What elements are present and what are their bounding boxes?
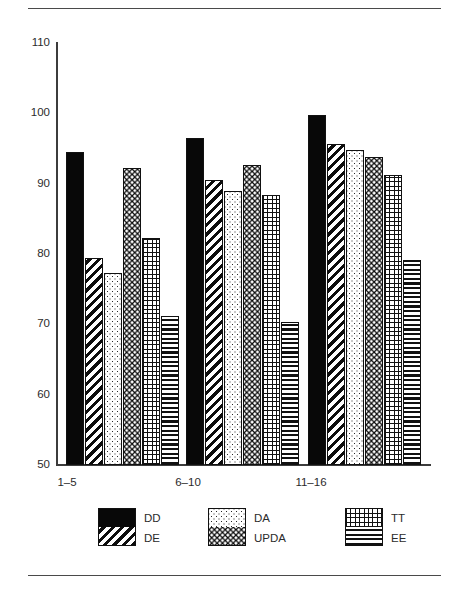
bar-de-group-2 <box>205 180 223 465</box>
legend-label-de: DE <box>144 529 161 547</box>
bar-ee-group-1 <box>161 316 179 465</box>
x-label-group-1: 1–5 <box>12 476 122 489</box>
chart-page: 110 100 90 80 70 60 50 1–5 6–10 11–16 DD… <box>0 0 463 589</box>
bar-chart-plot: 110 100 90 80 70 60 50 1–5 6–10 11–16 <box>0 0 463 589</box>
y-tick-110: 110 <box>20 37 50 49</box>
bar-upda-group-1 <box>123 168 141 466</box>
bar-dd-group-3 <box>308 115 326 465</box>
legend-swatch-tt <box>346 509 382 527</box>
legend-swatch-upda <box>209 527 245 545</box>
y-tick-90: 90 <box>20 178 50 190</box>
x-label-group-3: 11–16 <box>256 476 366 489</box>
legend-label-dd: DD <box>144 509 161 527</box>
y-tick-80: 80 <box>20 248 50 260</box>
bar-ee-group-3 <box>403 260 421 465</box>
bar-series-area <box>58 43 431 465</box>
legend-swatch-dd-de <box>98 508 136 546</box>
legend-column-3: TT EE <box>345 508 406 548</box>
bar-group-11-16 <box>308 43 428 465</box>
bar-da-group-3 <box>346 150 364 465</box>
y-tick-60: 60 <box>20 389 50 401</box>
legend-swatch-da-upda <box>208 508 246 546</box>
legend-swatch-ee <box>346 527 382 545</box>
bar-tt-group-1 <box>142 238 160 465</box>
legend-column-1: DD DE <box>98 508 161 548</box>
legend-column-2: DA UPDA <box>208 508 286 548</box>
bar-de-group-1 <box>85 258 103 466</box>
legend-swatch-de <box>99 527 135 545</box>
bar-upda-group-3 <box>365 157 383 465</box>
bar-de-group-3 <box>327 144 345 465</box>
bar-da-group-1 <box>104 273 122 465</box>
legend-label-upda: UPDA <box>254 529 286 547</box>
legend-swatch-dd <box>99 509 135 527</box>
chart-legend: DD DE DA UPDA TT EE <box>0 508 463 554</box>
y-tick-50: 50 <box>20 459 50 471</box>
bar-group-6-10 <box>186 43 306 465</box>
bar-tt-group-2 <box>262 195 280 465</box>
bar-da-group-2 <box>224 191 242 465</box>
legend-swatch-da <box>209 509 245 527</box>
legend-label-tt: TT <box>391 509 406 527</box>
legend-swatch-tt-ee <box>345 508 383 546</box>
y-tick-100: 100 <box>20 107 50 119</box>
bar-upda-group-2 <box>243 165 261 465</box>
y-tick-70: 70 <box>20 318 50 330</box>
bar-group-1-5 <box>66 43 186 465</box>
legend-label-ee: EE <box>391 529 406 547</box>
bar-ee-group-2 <box>281 322 299 465</box>
bar-dd-group-2 <box>186 138 204 465</box>
bar-dd-group-1 <box>66 152 84 465</box>
x-label-group-2: 6–10 <box>133 476 243 489</box>
legend-label-da: DA <box>254 509 286 527</box>
bar-tt-group-3 <box>384 175 402 466</box>
